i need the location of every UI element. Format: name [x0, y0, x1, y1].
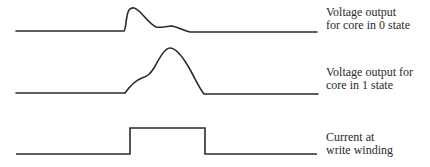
core-1-voltage-label: Voltage output for core in 1 state — [326, 66, 413, 92]
core-0-voltage-waveform — [16, 8, 317, 32]
write-current-label: Current at write winding — [326, 131, 393, 157]
label-line: write winding — [326, 144, 393, 157]
label-line: for core in 0 state — [326, 19, 410, 32]
write-current-waveform — [16, 128, 317, 154]
label-line: core in 1 state — [326, 79, 413, 92]
core-1-voltage-waveform — [16, 48, 318, 94]
core-0-voltage-label: Voltage output for core in 0 state — [326, 6, 410, 32]
